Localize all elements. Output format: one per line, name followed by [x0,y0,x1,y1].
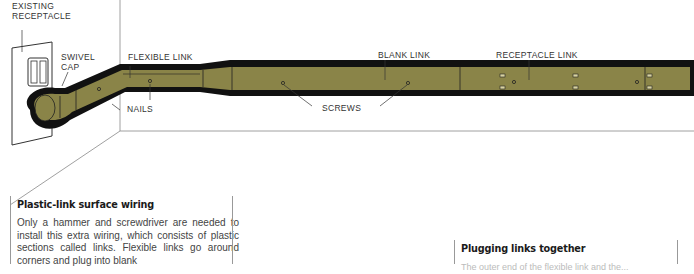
label-line: CAP [61,62,95,72]
label-existing-receptacle: EXISTING RECEPTACLE [12,1,71,21]
caption-left-right-rule [232,196,233,264]
caption-right-heading: Plugging links together [461,242,656,255]
label-flexible-link: FLEXIBLE LINK [128,52,193,62]
label-line: EXISTING [12,1,71,11]
caption-left-heading: Plastic-link surface wiring [17,198,212,211]
label-receptacle-link: RECEPTACLE LINK [496,50,578,60]
label-screws: SCREWS [322,103,361,113]
caption-right: Plugging links together The outer end of… [454,240,683,264]
caption-left: Plastic-link surface wiring Only a hamme… [10,196,239,264]
label-swivel-cap: SWIVEL CAP [61,52,95,72]
caption-left-body: Only a hammer and screwdriver are needed… [17,217,239,267]
label-line: RECEPTACLE [12,11,71,21]
caption-right-body: The outer end of the flexible link and t… [461,261,683,274]
caption-right-right-rule [677,240,678,264]
label-line: SWIVEL [61,52,95,62]
label-blank-link: BLANK LINK [378,50,430,60]
label-nails: NAILS [127,104,153,114]
swivel-cap [35,95,55,121]
